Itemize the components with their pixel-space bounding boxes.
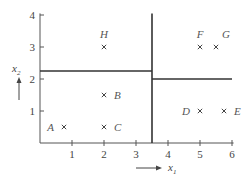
x-tick-label: 1 bbox=[69, 148, 75, 160]
y-tick-label: 3 bbox=[30, 41, 36, 53]
point-label: A bbox=[46, 121, 54, 133]
y-tick-label: 1 bbox=[30, 105, 36, 117]
point-label: C bbox=[114, 121, 122, 133]
point-label: E bbox=[233, 105, 241, 117]
point-e: E bbox=[222, 105, 241, 117]
y-tick-label: 2 bbox=[30, 73, 36, 85]
point-label: H bbox=[99, 28, 109, 40]
y-axis-arrowhead-icon bbox=[17, 77, 22, 83]
x-tick-label: 5 bbox=[197, 148, 203, 160]
point-h: H bbox=[99, 28, 109, 49]
data-points: ABCDEFGH bbox=[46, 28, 241, 133]
point-f: F bbox=[196, 28, 204, 49]
point-b: B bbox=[102, 89, 121, 101]
y-axis-label: x2 bbox=[11, 62, 21, 77]
point-a: A bbox=[46, 121, 66, 133]
y-tick-label: 4 bbox=[30, 9, 36, 21]
point-label: D bbox=[181, 105, 190, 117]
partition-diagram: 1234561234 ABCDEFGH x2 x1 bbox=[0, 0, 250, 181]
x-tick-label: 4 bbox=[165, 148, 171, 160]
point-label: B bbox=[114, 89, 121, 101]
x-axis-arrowhead-icon bbox=[156, 166, 162, 171]
x-tick-label: 6 bbox=[229, 148, 235, 160]
x-tick-label: 3 bbox=[133, 148, 139, 160]
x-tick-label: 2 bbox=[101, 148, 107, 160]
point-label: F bbox=[196, 28, 204, 40]
point-g: G bbox=[214, 28, 230, 49]
x-axis-label: x1 bbox=[167, 161, 176, 176]
point-d: D bbox=[181, 105, 202, 117]
axes: 1234561234 bbox=[30, 9, 236, 160]
point-c: C bbox=[102, 121, 122, 133]
point-label: G bbox=[222, 28, 230, 40]
